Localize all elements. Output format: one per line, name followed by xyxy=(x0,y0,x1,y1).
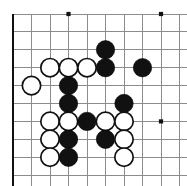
star-point xyxy=(66,12,70,16)
white-stone xyxy=(115,130,133,148)
white-stone xyxy=(59,58,77,76)
black-stone xyxy=(96,130,114,148)
black-stone xyxy=(78,112,96,130)
white-stone xyxy=(22,76,40,94)
go-board-diagram: Go board position diagram xyxy=(0,0,187,186)
grid-lines xyxy=(13,14,187,186)
white-stone xyxy=(41,112,59,130)
black-stone xyxy=(96,58,114,76)
white-stone xyxy=(96,112,114,130)
white-stone xyxy=(78,58,96,76)
white-stone xyxy=(41,58,59,76)
white-stone xyxy=(59,112,77,130)
white-stone xyxy=(115,112,133,130)
black-stone xyxy=(96,41,114,59)
go-board-canvas xyxy=(0,0,187,186)
white-stone xyxy=(41,130,59,148)
black-stone xyxy=(133,58,151,76)
star-point xyxy=(159,12,163,16)
white-stone xyxy=(115,148,133,166)
black-stone xyxy=(59,148,77,166)
white-stone xyxy=(41,148,59,166)
black-stone xyxy=(59,130,77,148)
black-stone xyxy=(59,94,77,112)
black-stone xyxy=(59,76,77,94)
star-point xyxy=(159,119,163,123)
black-stone xyxy=(115,94,133,112)
